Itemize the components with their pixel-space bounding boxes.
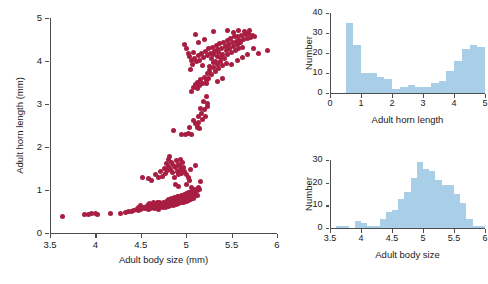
scatter-point (198, 179, 203, 184)
scatter-point (245, 52, 250, 57)
scatter-point (215, 79, 220, 84)
scatter-point (224, 61, 229, 66)
horn-length-histogram-plot-area (330, 13, 485, 93)
scatter-panel: 3.544.555.56012345 Adult body size (mm) … (0, 0, 292, 284)
y-tick (326, 93, 330, 94)
scatter-point (225, 28, 230, 33)
scatter-point (240, 55, 245, 60)
histogram-bar (462, 49, 470, 93)
scatter-point (229, 62, 234, 67)
scatter-point (231, 30, 236, 35)
scatter-point (176, 184, 181, 189)
histogram-bar (408, 85, 416, 93)
x-tick (277, 234, 278, 238)
y-axis-line (330, 13, 331, 93)
y-tick (326, 183, 330, 184)
histogram-bar (477, 47, 485, 93)
y-tick (45, 61, 49, 62)
scatter-plot-area (50, 18, 277, 233)
scatter-point (251, 46, 256, 51)
scatter-point (205, 104, 210, 109)
scatter-point (188, 67, 193, 72)
y-tick (326, 160, 330, 161)
x-tick-label: 6 (257, 239, 297, 250)
histogram-bar (346, 23, 354, 93)
scatter-point (202, 37, 207, 42)
scatter-point (167, 154, 172, 159)
scatter-point (235, 58, 240, 63)
y-axis-line (50, 18, 51, 233)
y-tick (45, 190, 49, 191)
scatter-y-axis-title: Adult horn length (mm) (14, 18, 25, 233)
body-size-x-axis-title: Adult body size (330, 249, 485, 260)
scatter-point (193, 32, 198, 37)
scatter-point (184, 182, 189, 187)
scatter-point (204, 81, 209, 86)
histogram-bar (377, 77, 385, 93)
figure-root: 3.544.555.56012345 Adult body size (mm) … (0, 0, 488, 284)
body-size-y-axis-title: Number (303, 160, 314, 228)
horn-length-y-axis-title: Number (303, 13, 314, 93)
histogram-bar (353, 45, 361, 93)
scatter-point (184, 46, 189, 51)
x-axis-line (330, 228, 485, 229)
histogram-bar (431, 83, 439, 93)
x-tick-label: 4 (75, 239, 115, 250)
scatter-point (265, 48, 270, 53)
scatter-point (140, 175, 145, 180)
scatter-point (203, 114, 208, 119)
scatter-x-axis-title: Adult body size (mm) (50, 254, 277, 265)
x-tick-label: 5 (166, 239, 206, 250)
scatter-point (204, 94, 209, 99)
y-tick (326, 228, 330, 229)
y-tick (326, 33, 330, 34)
y-tick (326, 73, 330, 74)
x-tick-label: 6 (465, 233, 488, 243)
scatter-point (196, 40, 201, 45)
x-tick-label: 5.5 (212, 239, 252, 250)
x-axis-line (330, 93, 485, 94)
scatter-point (60, 214, 65, 219)
scatter-point (211, 29, 216, 34)
histogram-bar (361, 73, 369, 93)
histogram-bar (470, 45, 478, 93)
scatter-point (195, 125, 200, 130)
histogram-bar (369, 73, 377, 93)
scatter-point (236, 28, 241, 33)
scatter-point (195, 80, 200, 85)
scatter-point (240, 45, 245, 50)
x-tick-label: 3.5 (30, 239, 70, 250)
scatter-point (149, 178, 154, 183)
x-tick (95, 234, 96, 238)
x-tick (186, 234, 187, 238)
scatter-point (193, 163, 198, 168)
scatter-point (256, 51, 261, 56)
y-tick (45, 18, 49, 19)
y-tick (326, 205, 330, 206)
histogram-bar (384, 79, 392, 93)
histogram-bar (446, 71, 454, 93)
scatter-point (191, 50, 196, 55)
scatter-point (178, 157, 183, 162)
scatter-point (207, 64, 212, 69)
x-tick (232, 234, 233, 238)
body-size-histogram-plot-area (330, 160, 485, 228)
scatter-point (108, 211, 113, 216)
scatter-point (220, 76, 225, 81)
scatter-point (95, 212, 100, 217)
x-axis-line (50, 233, 277, 234)
scatter-point (171, 128, 176, 133)
y-tick (326, 53, 330, 54)
x-tick (141, 234, 142, 238)
x-tick (50, 234, 51, 238)
scatter-point (188, 167, 193, 172)
scatter-point (189, 132, 194, 137)
x-tick-label: 5 (465, 98, 488, 108)
y-tick (45, 147, 49, 148)
scatter-point (187, 125, 192, 130)
scatter-point (195, 188, 200, 193)
y-axis-line (330, 160, 331, 228)
y-tick (45, 233, 49, 234)
scatter-point (200, 63, 205, 68)
scatter-point (252, 34, 257, 39)
